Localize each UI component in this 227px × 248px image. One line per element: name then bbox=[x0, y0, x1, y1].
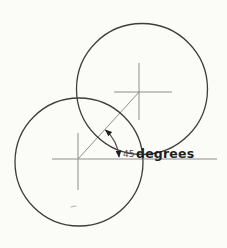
angle-unit-label: degrees bbox=[136, 146, 194, 161]
angle-dimension-arc bbox=[106, 130, 120, 157]
diagram-svg: 45 degrees bbox=[0, 0, 227, 248]
angle-value-label: 45 bbox=[123, 149, 134, 159]
drawing-canvas: 45 degrees bbox=[0, 0, 227, 248]
scan-speck bbox=[71, 206, 76, 207]
upper-circle bbox=[77, 24, 208, 155]
lower-circle bbox=[15, 98, 143, 226]
